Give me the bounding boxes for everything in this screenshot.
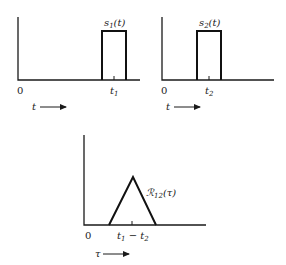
s1-tick-label: t1 <box>110 85 119 98</box>
s2-origin-label: 0 <box>161 85 167 96</box>
s2-label: s2(t) <box>199 17 221 30</box>
r12-label: ℛ12(τ) <box>146 187 176 200</box>
s1-pulse <box>102 31 126 80</box>
cross-correlation-diagram: s1(t) 0 t1 t s2(t) 0 t2 t ℛ12(τ) 0 t1 − … <box>0 0 286 265</box>
panel-r12: ℛ12(τ) 0 t1 − t2 τ <box>84 135 206 259</box>
panel-s1: s1(t) 0 t1 t <box>17 17 140 112</box>
s1-label: s1(t) <box>104 17 126 30</box>
s2-tick-label: t2 <box>205 85 214 98</box>
panel-s2: s2(t) 0 t2 t <box>161 17 274 112</box>
r12-axes <box>84 135 206 225</box>
r12-triangle <box>109 177 156 225</box>
r12-tick-label: t1 − t2 <box>117 230 149 243</box>
s2-pulse <box>197 31 221 80</box>
s1-origin-label: 0 <box>17 85 23 96</box>
r12-axis-var: τ <box>95 248 101 259</box>
s2-axis-var: t <box>166 101 171 112</box>
r12-origin-label: 0 <box>85 230 91 241</box>
s1-axis-var: t <box>32 101 37 112</box>
